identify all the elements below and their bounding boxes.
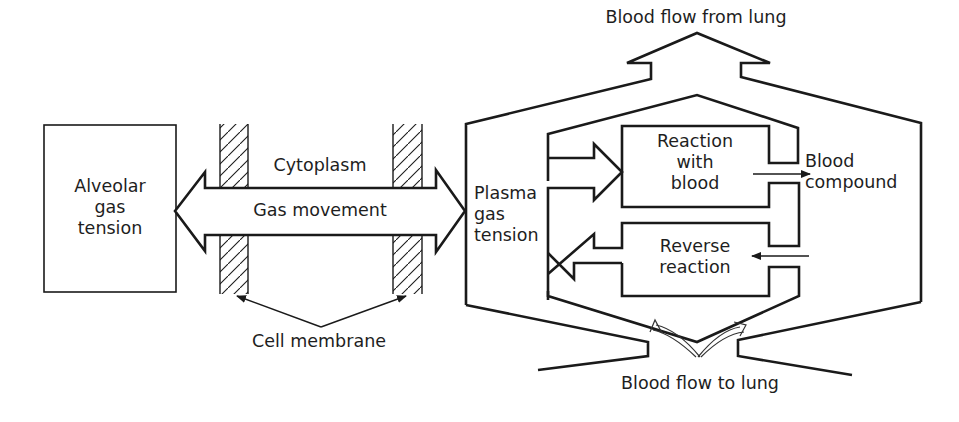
alveolar-label: Alveolar gas tension (55, 176, 165, 239)
cell-membrane-label: Cell membrane (244, 331, 394, 352)
reverse-line-1: Reverse (640, 236, 750, 257)
plasma-line-1: Plasma (474, 183, 539, 204)
reaction-line-2: with (640, 152, 750, 173)
reverse-reaction-label: Reverse reaction (640, 236, 750, 278)
plasma-label: Plasma gas tension (474, 183, 539, 246)
flow-from-lung-label: Blood flow from lung (596, 7, 796, 28)
forward-arrow (548, 144, 622, 300)
plasma-line-2: gas (474, 204, 539, 225)
alveolar-line-1: Alveolar (55, 176, 165, 197)
flow-to-lung-label: Blood flow to lung (600, 373, 800, 394)
alveolar-line-3: tension (55, 218, 165, 239)
blood-compound-line-2: compound (805, 172, 897, 193)
alveolar-line-2: gas (55, 197, 165, 218)
plasma-line-3: tension (474, 225, 539, 246)
reaction-label: Reaction with blood (640, 131, 750, 194)
vessel-outer-bottom-left (466, 305, 648, 370)
vessel-outer-bottom-right (738, 302, 921, 375)
cytoplasm-label: Cytoplasm (262, 155, 378, 176)
reverse-line-2: reaction (640, 257, 750, 278)
gas-movement-label: Gas movement (240, 200, 400, 221)
blood-compound-line-1: Blood (805, 151, 897, 172)
reaction-line-1: Reaction (640, 131, 750, 152)
blood-compound-label: Blood compound (805, 151, 897, 193)
reaction-line-3: blood (640, 173, 750, 194)
cell-membrane-pointers (237, 296, 406, 327)
